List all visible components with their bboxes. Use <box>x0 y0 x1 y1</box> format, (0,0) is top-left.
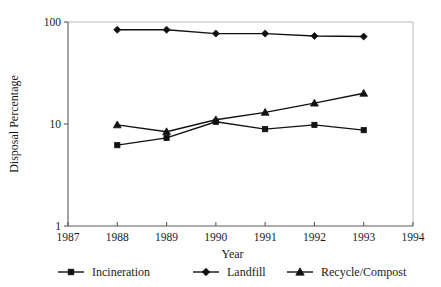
x-tick-label: 1992 <box>303 231 326 243</box>
y-tick-label: 100 <box>44 16 62 28</box>
x-tick-label: 1987 <box>57 231 80 243</box>
series-incineration <box>115 119 367 148</box>
marker-square <box>263 127 268 132</box>
chart-legend: IncinerationLandfillRecycle/Compost <box>58 265 407 279</box>
x-tick-label: 1988 <box>106 231 129 243</box>
marker-square <box>68 269 74 275</box>
data-series-group <box>113 26 367 148</box>
x-axis-title: Year <box>221 247 243 261</box>
legend-item-landfill[interactable]: Landfill <box>193 265 266 279</box>
series-recycle-compost <box>113 89 367 134</box>
marker-square <box>164 135 169 140</box>
x-axis-ticks: 19871988198919901991199219931994 <box>57 222 425 243</box>
marker-diamond <box>114 26 121 33</box>
marker-diamond <box>311 32 318 39</box>
legend-item-recycle-compost[interactable]: Recycle/Compost <box>287 265 407 279</box>
marker-square <box>115 143 120 148</box>
legend-label: Incineration <box>92 265 150 279</box>
plot-box-outline <box>68 22 413 226</box>
legend-label: Recycle/Compost <box>321 265 407 279</box>
marker-diamond <box>262 30 269 37</box>
marker-diamond <box>360 33 367 40</box>
y-axis-title: Disposal Percentage <box>7 75 21 173</box>
x-tick-label: 1991 <box>254 231 277 243</box>
x-tick-label: 1990 <box>204 231 227 243</box>
marker-square <box>361 128 366 133</box>
x-tick-label: 1993 <box>352 231 375 243</box>
plot-axes <box>68 22 413 226</box>
y-axis-ticks: 100101 <box>44 16 68 232</box>
series-landfill <box>114 26 367 40</box>
x-tick-label: 1994 <box>402 231 425 243</box>
series-polyline <box>117 30 363 37</box>
marker-diamond <box>212 30 219 37</box>
legend-label: Landfill <box>227 265 266 279</box>
legend-item-incineration[interactable]: Incineration <box>58 265 150 279</box>
marker-triangle <box>113 121 121 128</box>
y-tick-label: 10 <box>50 118 62 130</box>
marker-triangle <box>360 89 368 96</box>
marker-diamond <box>202 268 210 276</box>
plot-frame <box>68 22 413 226</box>
chart-container: 100101 19871988198919901991199219931994 … <box>0 0 441 287</box>
x-tick-label: 1989 <box>155 231 178 243</box>
disposal-percentage-line-chart: 100101 19871988198919901991199219931994 … <box>0 0 441 287</box>
marker-square <box>312 122 317 127</box>
marker-diamond <box>163 26 170 33</box>
series-polyline <box>117 122 363 145</box>
